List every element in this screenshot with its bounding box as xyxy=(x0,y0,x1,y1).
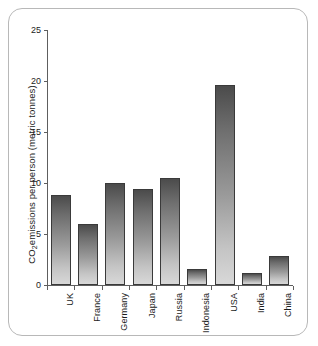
bar[interactable] xyxy=(51,195,71,285)
bar[interactable] xyxy=(269,256,289,285)
x-axis-category-label: Germany xyxy=(119,293,129,331)
bar[interactable] xyxy=(105,183,125,285)
x-axis-tick xyxy=(47,286,48,290)
x-axis-category-label: Indonesia xyxy=(201,293,211,333)
x-axis-tick xyxy=(129,286,130,290)
x-axis-tick xyxy=(293,286,294,290)
x-axis-category-label: India xyxy=(256,293,266,313)
x-axis-tick xyxy=(211,286,212,290)
x-axis-category-label: China xyxy=(283,293,293,317)
x-axis-tick xyxy=(238,286,239,290)
x-axis-category-label: USA xyxy=(229,293,239,312)
chart-plot-area: CO2emissions per person (metric tonnes) … xyxy=(9,9,309,337)
x-axis-category-label: UK xyxy=(65,293,75,306)
bar[interactable] xyxy=(242,273,262,285)
x-axis-tick xyxy=(156,286,157,290)
x-axis-line xyxy=(47,285,293,286)
bar[interactable] xyxy=(215,85,235,285)
bars-layer xyxy=(9,9,309,285)
x-axis-category-label: Russia xyxy=(174,293,184,321)
bar[interactable] xyxy=(160,178,180,285)
bar[interactable] xyxy=(187,269,207,285)
x-axis-tick xyxy=(74,286,75,290)
x-axis-category-label: France xyxy=(92,293,102,322)
x-axis-tick xyxy=(266,286,267,290)
x-axis-tick xyxy=(102,286,103,290)
bar[interactable] xyxy=(133,189,153,285)
chart-frame: CO2emissions per person (metric tonnes) … xyxy=(8,8,308,336)
x-axis-category-label: Japan xyxy=(147,293,157,318)
x-axis-tick xyxy=(184,286,185,290)
bar[interactable] xyxy=(78,224,98,285)
